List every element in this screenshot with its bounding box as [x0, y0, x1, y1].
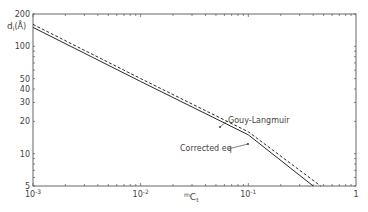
annotation-label: Corrected eq [180, 144, 232, 153]
y-tick-label: 40 [20, 85, 30, 94]
data-series [33, 24, 321, 186]
arrow-head-icon [247, 143, 249, 145]
series-corrected-eq [33, 27, 313, 186]
x-tick-label: 10-1 [240, 188, 256, 199]
annotation-label: Gouy-Langmuir [228, 116, 290, 125]
axis-ticks [33, 14, 356, 186]
y-tick-label: 200 [15, 10, 30, 19]
x-axis-title: mCt [184, 191, 199, 203]
annotations: Gouy-LangmuirCorrected eq [180, 116, 290, 153]
y-tick-label: 20 [20, 117, 30, 126]
y-axis-title: di(Å) [7, 20, 26, 32]
x-tick-label: 10-2 [133, 188, 149, 199]
chart: 51020304050100200 10-310-210-11 Gouy-Lan… [0, 0, 368, 212]
plot-frame [33, 14, 356, 186]
y-tick-label: 30 [20, 98, 30, 107]
x-tick-label: 10-3 [25, 188, 41, 199]
plot-border [33, 14, 356, 186]
y-tick-labels: 51020304050100200 [15, 10, 30, 191]
x-tick-label: 1 [353, 190, 358, 199]
y-tick-label: 10 [20, 150, 30, 159]
axis-titles: di(Å)mCt [7, 20, 199, 203]
y-tick-label: 50 [20, 75, 30, 84]
y-tick-label: 100 [15, 42, 30, 51]
arrow-head-icon [219, 126, 221, 128]
